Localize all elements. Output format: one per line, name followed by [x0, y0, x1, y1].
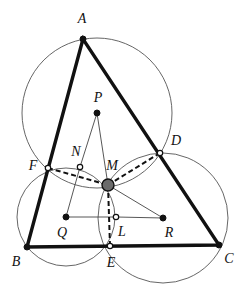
geometry-figure: A B C D E F P Q R L N M — [0, 0, 245, 296]
point-label-P: P — [94, 91, 103, 105]
point-marker-L — [113, 214, 118, 219]
point-marker-E — [107, 243, 112, 248]
point-marker-P — [94, 110, 100, 116]
point-label-Q: Q — [57, 226, 67, 240]
point-label-F: F — [29, 159, 38, 173]
point-label-D: D — [171, 134, 181, 148]
triangle-outline — [27, 39, 219, 247]
point-label-L: L — [118, 225, 126, 239]
point-marker-Q — [63, 214, 69, 220]
point-marker-A — [80, 36, 86, 42]
point-label-N: N — [71, 145, 80, 159]
point-marker-N — [77, 164, 82, 169]
point-label-B: B — [12, 255, 21, 269]
point-marker-D — [157, 150, 162, 155]
segment-L-R — [116, 217, 163, 218]
point-label-R: R — [165, 226, 174, 240]
point-marker-F — [45, 165, 50, 170]
segment-P-M — [97, 113, 108, 185]
point-label-C: C — [224, 252, 233, 266]
point-marker-C — [216, 242, 222, 248]
point-marker-M — [102, 179, 114, 191]
point-marker-B — [24, 244, 30, 250]
figure-canvas — [0, 0, 245, 296]
point-label-A: A — [78, 12, 87, 26]
segment-P-N — [80, 113, 97, 167]
point-marker-R — [160, 215, 166, 221]
triangle-ABC — [27, 39, 219, 247]
segment-M-R — [108, 185, 163, 218]
point-label-M: M — [106, 159, 118, 173]
point-label-E: E — [107, 256, 116, 270]
